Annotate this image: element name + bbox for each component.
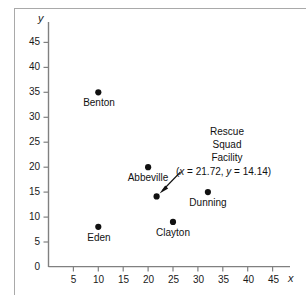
plot-canvas [0, 0, 306, 295]
y-axis-ticks [44, 42, 49, 242]
y-tick-label-15: 15 [18, 186, 40, 197]
point-label-dunning: Dunning [181, 197, 235, 208]
x-tick-label-10: 10 [86, 274, 111, 285]
point-label-eden: Eden [78, 232, 120, 243]
annotation-line-squad: Squad [198, 139, 256, 150]
y-tick-label-40: 40 [18, 61, 40, 72]
y-tick-label-30: 30 [18, 111, 40, 122]
x-tick-label-40: 40 [236, 274, 261, 285]
x-axis-label: x [288, 272, 294, 284]
y-tick-label-0: 0 [18, 261, 40, 272]
y-tick-label-20: 20 [18, 161, 40, 172]
x-tick-label-25: 25 [161, 274, 186, 285]
y-axis-label: y [38, 12, 44, 24]
point-label-abbeville: Abbeville [117, 172, 179, 183]
data-point-rescue-squad-facility [154, 193, 160, 199]
data-point-clayton [170, 219, 176, 225]
y-tick-label-5: 5 [18, 236, 40, 247]
x-tick-label-15: 15 [111, 274, 136, 285]
x-tick-label-30: 30 [186, 274, 211, 285]
x-tick-label-20: 20 [136, 274, 161, 285]
coord-x-value: = 21.72, [184, 166, 226, 177]
x-axis-ticks [73, 267, 272, 272]
x-tick-label-5: 5 [61, 274, 86, 285]
annotation-line-facility: Facility [198, 152, 256, 163]
point-label-clayton: Clayton [148, 227, 198, 238]
y-tick-label-35: 35 [18, 86, 40, 97]
data-point-dunning [205, 189, 211, 195]
annotation-coordinates: (x = 21.72, y = 14.14) [176, 166, 271, 177]
x-tick-label-45: 45 [261, 274, 286, 285]
data-point-benton [95, 89, 101, 95]
scatter-plot-figure: 45 40 35 30 25 20 15 10 5 0 5 10 15 20 2… [0, 0, 306, 295]
data-point-abbeville [145, 164, 151, 170]
y-tick-label-45: 45 [18, 36, 40, 47]
point-label-benton: Benton [74, 97, 124, 108]
y-tick-label-10: 10 [18, 211, 40, 222]
annotation-line-rescue: Rescue [198, 126, 256, 137]
y-tick-label-25: 25 [18, 136, 40, 147]
coord-y-value: = 14.14) [231, 166, 271, 177]
x-tick-label-35: 35 [211, 274, 236, 285]
data-point-eden [95, 224, 101, 230]
